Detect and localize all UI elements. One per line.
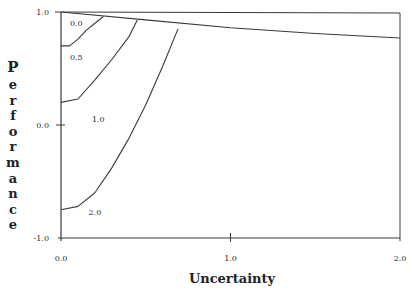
region-label: 0.5 [70, 53, 83, 62]
y-tick-label: 0.0 [36, 121, 49, 130]
y-axis-label-letter: n [8, 186, 17, 202]
region-label: 2.0 [89, 208, 102, 217]
y-axis-label-letter: c [9, 202, 17, 218]
chart-canvas: 1.00.0-1.00.01.02.0 0.00.51.02.0 [0, 0, 414, 297]
x-axis-label: Uncertainty [0, 271, 414, 286]
tick-labels: 1.00.0-1.00.01.02.0 [34, 8, 407, 263]
top-border-line [55, 12, 400, 13]
y-axis-label-letter: e [9, 217, 17, 233]
curve-0 [61, 12, 400, 38]
y-axis-label-letter: r [10, 139, 17, 155]
y-axis-label-letter: r [10, 93, 17, 109]
y-axis-label-letter: f [10, 108, 16, 124]
y-tick-label: 1.0 [36, 8, 49, 17]
region-label: 0.0 [70, 19, 83, 28]
region-label: 1.0 [92, 115, 105, 124]
y-axis-label-letter: o [9, 124, 18, 140]
y-tick-label: -1.0 [34, 234, 49, 243]
y-axis-label-letter: e [9, 77, 17, 93]
x-tick-label: 1.0 [224, 254, 237, 263]
y-axis-label-letter: m [6, 155, 20, 171]
y-axis-label: Performance [6, 58, 20, 233]
x-tick-label: 2.0 [394, 254, 407, 263]
axes [55, 12, 400, 242]
region-labels: 0.00.51.02.0 [70, 19, 105, 217]
y-axis-label-letter: P [7, 58, 18, 77]
curves [61, 12, 400, 210]
y-axis-label-letter: a [9, 171, 17, 187]
x-tick-label: 0.0 [55, 254, 68, 263]
